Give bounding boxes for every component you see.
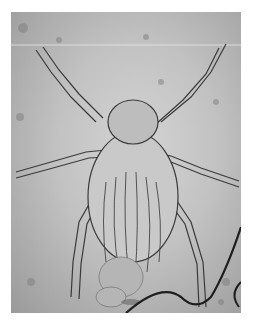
mite-illustration <box>11 12 241 313</box>
gnathosoma <box>108 100 158 144</box>
body <box>88 132 178 262</box>
micrograph <box>11 12 241 313</box>
